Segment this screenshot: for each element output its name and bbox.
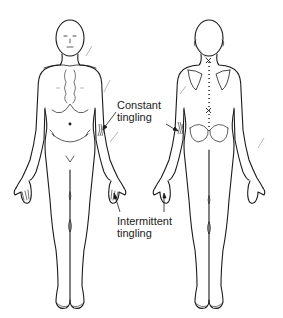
constant-line2: tingling bbox=[117, 111, 161, 123]
spine-marks bbox=[206, 58, 211, 132]
intermittent-tingling-label: Intermittent tingling bbox=[117, 215, 172, 239]
body-outlines bbox=[0, 0, 283, 318]
annotation-arrows bbox=[103, 112, 178, 212]
front-figure bbox=[14, 20, 126, 308]
intermittent-line2: tingling bbox=[117, 227, 172, 239]
constant-tingling-area bbox=[98, 122, 183, 136]
constant-line1: Constant bbox=[117, 99, 161, 111]
constant-tingling-label: Constant tingling bbox=[117, 99, 161, 123]
body-chart-diagram: Constant tingling Intermittent tingling bbox=[0, 0, 283, 318]
back-figure bbox=[153, 20, 265, 308]
intermittent-line1: Intermittent bbox=[117, 215, 172, 227]
